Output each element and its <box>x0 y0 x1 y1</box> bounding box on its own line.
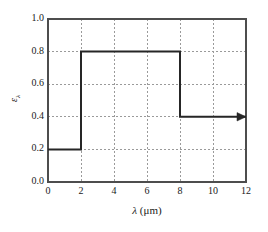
emissivity-step-chart: ελ λ (μm) 0.00.20.40.60.81.0 024681012 <box>0 0 268 232</box>
gridlines <box>48 19 246 182</box>
plot-area <box>0 0 268 232</box>
curve-end-arrow-icon <box>237 113 246 121</box>
